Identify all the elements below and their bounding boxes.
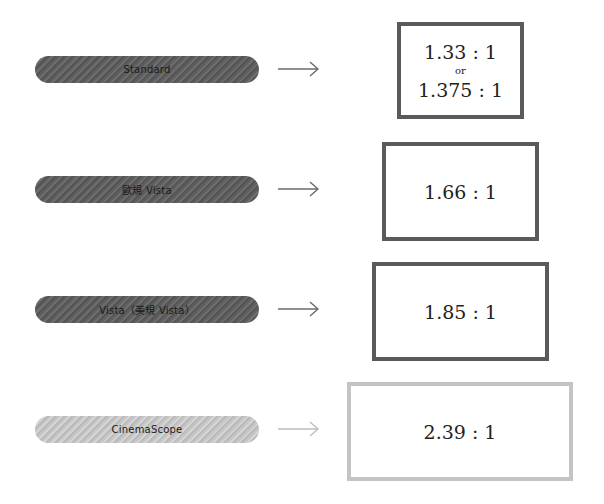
aspect-ratio-box-american-vista: 1.85 : 1 (372, 262, 549, 361)
format-label: Standard (123, 64, 170, 75)
arrow-right-icon (277, 59, 321, 79)
format-label: Vista（美規 Vista） (99, 302, 195, 317)
aspect-ratio-value: 1.66 : 1 (424, 180, 497, 204)
ratio-separator: or (455, 65, 466, 77)
aspect-ratio-box-european-vista: 1.66 : 1 (382, 142, 539, 241)
aspect-ratio-alt-value: 1.375 : 1 (418, 78, 503, 102)
arrow-right-icon (277, 299, 321, 319)
format-label: 歐規 Vista (122, 182, 171, 197)
format-pill-american-vista: Vista（美規 Vista） (35, 296, 259, 323)
aspect-ratio-box-standard: 1.33 : 1 or 1.375 : 1 (397, 22, 524, 119)
arrow-right-icon (277, 179, 321, 199)
format-pill-european-vista: 歐規 Vista (35, 176, 259, 203)
format-pill-cinemascope: CinemaScope (35, 416, 259, 443)
aspect-ratio-box-cinemascope: 2.39 : 1 (347, 382, 573, 481)
format-pill-standard: Standard (35, 56, 259, 83)
aspect-ratio-value: 1.85 : 1 (424, 300, 497, 324)
aspect-ratio-value: 2.39 : 1 (424, 420, 497, 444)
format-label: CinemaScope (112, 424, 183, 435)
aspect-ratio-value: 1.33 : 1 (424, 40, 497, 64)
arrow-right-icon (277, 419, 321, 439)
